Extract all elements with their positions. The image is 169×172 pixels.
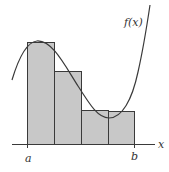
interval-end-label: b xyxy=(131,150,138,163)
interval-start-label: a xyxy=(25,152,32,165)
rectangle-2 xyxy=(55,72,82,145)
function-label: f(x) xyxy=(123,16,143,29)
x-axis-label: x xyxy=(158,138,165,151)
rectangle-1 xyxy=(28,43,55,145)
rectangle-3 xyxy=(82,111,109,145)
riemann-sum-diagram: f(x) x a b xyxy=(0,0,169,172)
rectangle-4 xyxy=(109,112,135,145)
rectangles xyxy=(28,43,135,145)
